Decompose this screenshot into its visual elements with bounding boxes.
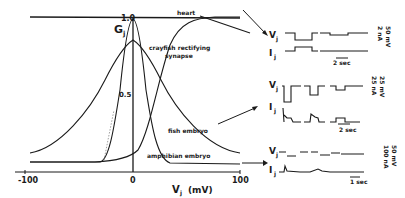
trace-panel-2: V j I j 2 sec 25 nA 25 mV <box>269 76 386 133</box>
label-fish-embryo: fish embryo <box>168 127 208 135</box>
svg-text:j: j <box>273 53 276 61</box>
svg-text:50 mV: 50 mV <box>391 145 398 167</box>
figure-canvas: -100 0 100 1.0 0.5 G j V j (mV) heart cr… <box>0 0 405 198</box>
x-tick-100: 100 <box>232 176 249 185</box>
y-axis-label: G <box>114 23 123 36</box>
label-crayfish-2: synapse <box>165 52 193 60</box>
svg-text:I: I <box>269 48 272 58</box>
svg-text:25 nA: 25 nA <box>371 76 378 96</box>
label-heart: heart <box>177 9 195 16</box>
svg-text:I: I <box>269 102 272 112</box>
x-axis-label: V <box>172 184 180 195</box>
svg-text:V: V <box>269 30 276 40</box>
svg-text:2 sec: 2 sec <box>339 126 357 133</box>
svg-text:1 sec: 1 sec <box>350 178 368 185</box>
arrow-heart <box>243 10 266 34</box>
curve-crayfish <box>30 17 240 162</box>
svg-text:25 mV: 25 mV <box>379 76 386 98</box>
svg-text:50 mV: 50 mV <box>385 26 392 48</box>
svg-text:2 nA: 2 nA <box>377 26 384 42</box>
svg-text:100 nA: 100 nA <box>383 145 390 169</box>
trace-panel-1: V j I j 2 sec 2 nA 50 mV <box>269 26 392 66</box>
arrow-fish <box>218 108 255 124</box>
x-axis-unit: (mV) <box>188 185 213 195</box>
x-tick-neg100: -100 <box>18 176 38 185</box>
svg-text:j: j <box>275 35 278 43</box>
svg-text:j: j <box>273 170 276 178</box>
svg-text:V: V <box>269 146 276 156</box>
svg-text:2 sec: 2 sec <box>333 59 351 66</box>
label-crayfish-1: crayfish rectifying <box>149 44 210 52</box>
x-axis-sub: j <box>179 189 182 197</box>
svg-text:I: I <box>269 165 272 175</box>
y-tick-1: 1.0 <box>121 14 136 23</box>
y-tick-05: 0.5 <box>119 91 132 99</box>
svg-text:j: j <box>275 151 278 159</box>
y-axis-sub: j <box>122 30 125 38</box>
svg-text:V: V <box>269 80 276 90</box>
trace-panel-3: V j I j 1 sec 100 nA 50 mV <box>269 145 398 185</box>
x-tick-0: 0 <box>130 176 136 185</box>
curve-fish-embryo <box>30 40 240 153</box>
label-amphibian-embryo: amphibian embryo <box>147 152 210 160</box>
svg-text:j: j <box>273 107 276 115</box>
svg-text:j: j <box>275 85 278 93</box>
